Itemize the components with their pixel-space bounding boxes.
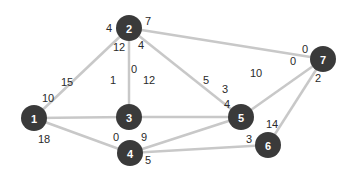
edge-weight-2-3-to: 0 — [131, 63, 137, 75]
edge-weight-4-6-from: 5 — [145, 154, 151, 166]
node-4: 4 — [117, 140, 143, 166]
edge-weight-4-6-to: 3 — [246, 133, 252, 145]
graph-diagram: 10415118012043701259453100142 1234567 — [0, 0, 355, 179]
edge-weight-2-5-to: 3 — [222, 83, 228, 95]
node-5: 5 — [228, 104, 254, 130]
edge-weight-2-7-from: 7 — [145, 15, 151, 27]
edge-weight-2-5-from: 4 — [138, 39, 144, 51]
node-3: 3 — [116, 104, 142, 130]
edge-weight-3-5-to: 5 — [203, 74, 209, 86]
edge-weight-1-3-to: 1 — [110, 74, 116, 86]
node-label: 6 — [265, 140, 271, 152]
edge-weight-6-7-to: 2 — [315, 72, 321, 84]
node-7: 7 — [310, 46, 336, 72]
edge-weight-6-7-from: 14 — [266, 118, 278, 130]
edge-weight-1-2-from: 10 — [42, 92, 54, 104]
edge-weight-1-3-from: 15 — [61, 76, 73, 88]
edge-weight-1-2-to: 4 — [106, 22, 112, 34]
node-1: 1 — [21, 105, 47, 131]
node-label: 2 — [126, 23, 132, 35]
nodes-layer: 1234567 — [21, 15, 336, 166]
edge-weight-2-3-from: 12 — [113, 41, 125, 53]
node-label: 7 — [320, 54, 326, 66]
node-label: 3 — [126, 112, 132, 124]
edge-weight-1-4-to: 0 — [113, 131, 119, 143]
node-label: 5 — [238, 112, 244, 124]
edges-layer — [34, 28, 323, 153]
edge-weight-4-5-to: 4 — [224, 98, 230, 110]
edge-weight-4-5-from: 9 — [141, 131, 147, 143]
edge-weight-5-7-to: 0 — [290, 55, 296, 67]
edge-weight-3-5-from: 12 — [143, 74, 155, 86]
node-label: 1 — [31, 113, 37, 125]
node-2: 2 — [116, 15, 142, 41]
edge-weight-1-4-from: 18 — [38, 133, 50, 145]
edge-weight-5-7-from: 10 — [250, 67, 262, 79]
edge-weight-2-7-to: 0 — [302, 43, 308, 55]
node-6: 6 — [255, 132, 281, 158]
edge-1-3 — [34, 117, 129, 118]
node-label: 4 — [127, 148, 134, 160]
